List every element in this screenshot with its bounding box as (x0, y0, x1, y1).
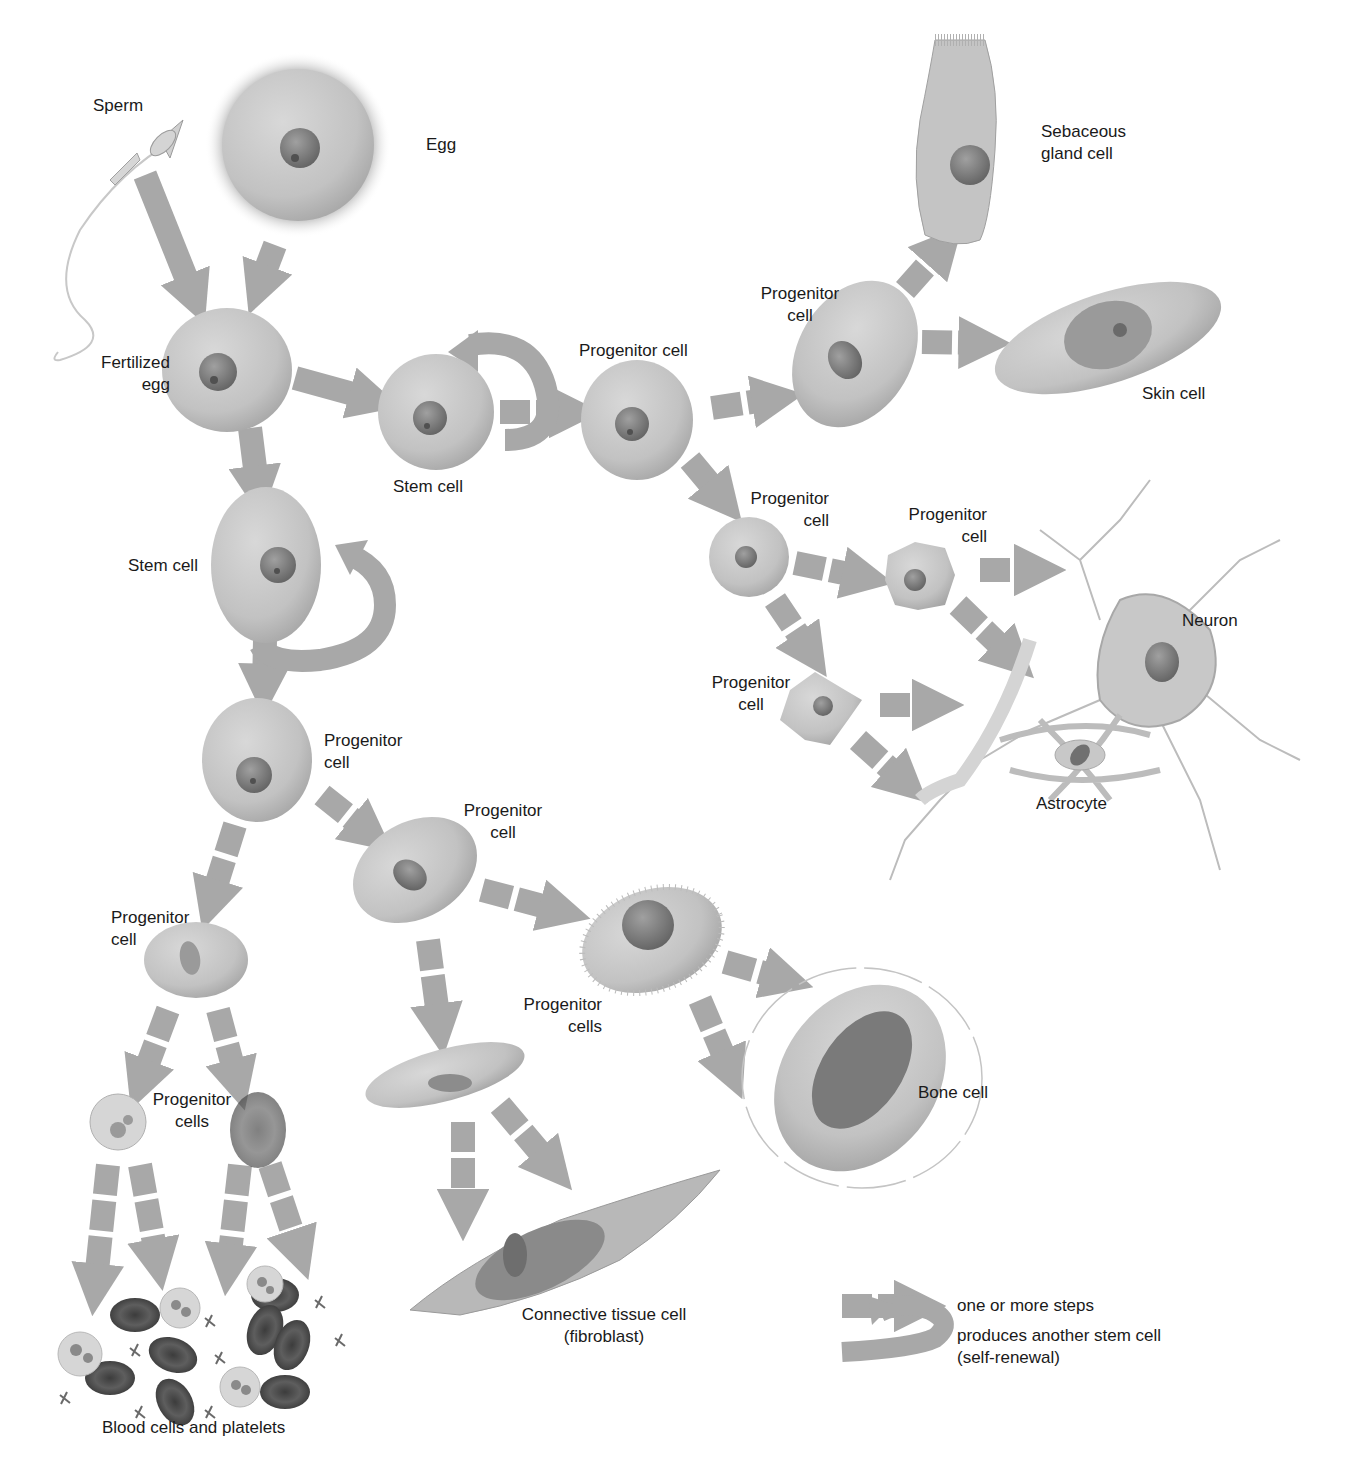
progenitor-cells-bone (567, 868, 737, 1011)
label-progenitor-neural-1: Progenitor cell (736, 488, 829, 532)
fertilized-egg-cell (162, 308, 292, 432)
sebaceous-gland-cell (916, 40, 996, 244)
legend-curved-arrow-label: produces another stem cell (self-renewal… (957, 1325, 1161, 1369)
arrow-blood-4 (270, 1165, 300, 1255)
arrow-fertilized-to-stemcell (295, 378, 375, 400)
label-stem-cell-center: Stem cell (393, 476, 463, 498)
label-stem-cell-left: Stem cell (128, 555, 198, 577)
label-progenitor-mid: Progenitor cell (458, 800, 548, 844)
label-progenitor-top-row: Progenitor cell (579, 340, 688, 362)
arrow-prog-to-blood-prog (210, 825, 235, 905)
arrow-prog2-to-glia (958, 605, 1015, 660)
egg-cell (205, 52, 391, 238)
arrow-to-sebaceous (905, 245, 945, 290)
stem-cell-left (211, 487, 321, 643)
arrow-bloodprog-right (218, 1010, 238, 1085)
arrow-blood-2 (140, 1165, 158, 1265)
label-progenitor-blood: Progenitor cell (111, 907, 189, 951)
arrow-mid-to-connective-prog (428, 940, 440, 1030)
arrow-to-skincell (922, 342, 985, 343)
arrow-to-neural-prog (690, 460, 725, 502)
bone-cell (739, 951, 982, 1204)
diagram-canvas (0, 0, 1345, 1466)
label-egg: Egg (426, 134, 456, 156)
arrow-connprog-to-fibro-2 (500, 1105, 555, 1170)
progenitor-cell-neural-2 (885, 542, 955, 610)
label-sperm: Sperm (93, 95, 143, 117)
blood-cells-platelets (58, 1266, 345, 1432)
label-sebaceous-gland-cell: Sebaceous gland cell (1041, 121, 1126, 165)
label-skin-cell: Skin cell (1142, 383, 1205, 405)
fibroblast-cell (410, 1170, 720, 1317)
arrow-boneprog-to-bone2 (700, 1000, 732, 1075)
arrow-blood-1 (95, 1165, 108, 1290)
arrow-neural-to-prog2 (795, 563, 868, 578)
label-progenitor-neural-2: Progenitor cell (895, 504, 987, 548)
label-connective-tissue-cell: Connective tissue cell (fibroblast) (506, 1304, 702, 1348)
arrow-boneprog-to-bone (725, 962, 788, 980)
arrow-bloodprog-left (140, 1010, 168, 1085)
progenitor-cell-top (581, 360, 693, 480)
arrow-fertilized-to-leftstem (250, 428, 258, 492)
progenitor-cell-left (202, 698, 312, 822)
label-progenitor-neural-3: Progenitor cell (704, 672, 798, 716)
stem-cell-diagram: Sperm Egg Fertilized egg Stem cell Proge… (0, 0, 1345, 1466)
label-progenitor-left: Progenitor cell (324, 730, 402, 774)
arrow-egg-to-fertilized (258, 245, 275, 290)
arrow-neural-to-prog3 (775, 600, 812, 655)
arrow-sperm-to-fertilized (145, 175, 195, 300)
label-fertilized-egg: Fertilized egg (88, 352, 170, 396)
arrow-progenitor-to-skinprog (712, 398, 778, 408)
label-bone-cell: Bone cell (918, 1082, 988, 1104)
label-progenitor-skin: Progenitor cell (760, 283, 840, 327)
stem-cell-center (378, 354, 494, 470)
label-progenitor-cells-connective: Progenitor cells (510, 994, 602, 1038)
astrocyte-cell (1000, 715, 1160, 800)
legend-dashed-arrow-label: one or more steps (957, 1295, 1094, 1317)
label-astrocyte: Astrocyte (1036, 793, 1107, 815)
arrow-mid-to-bone-prog (482, 890, 565, 912)
arrow-blood-3 (228, 1165, 240, 1270)
label-blood-cells-platelets: Blood cells and platelets (102, 1417, 285, 1439)
label-progenitor-cells-blood: Progenitor cells (146, 1089, 238, 1133)
arrow-prog3-to-astrocyte (858, 740, 908, 785)
arrow-prog-to-prog-mid (322, 795, 372, 835)
label-neuron: Neuron (1182, 610, 1238, 632)
